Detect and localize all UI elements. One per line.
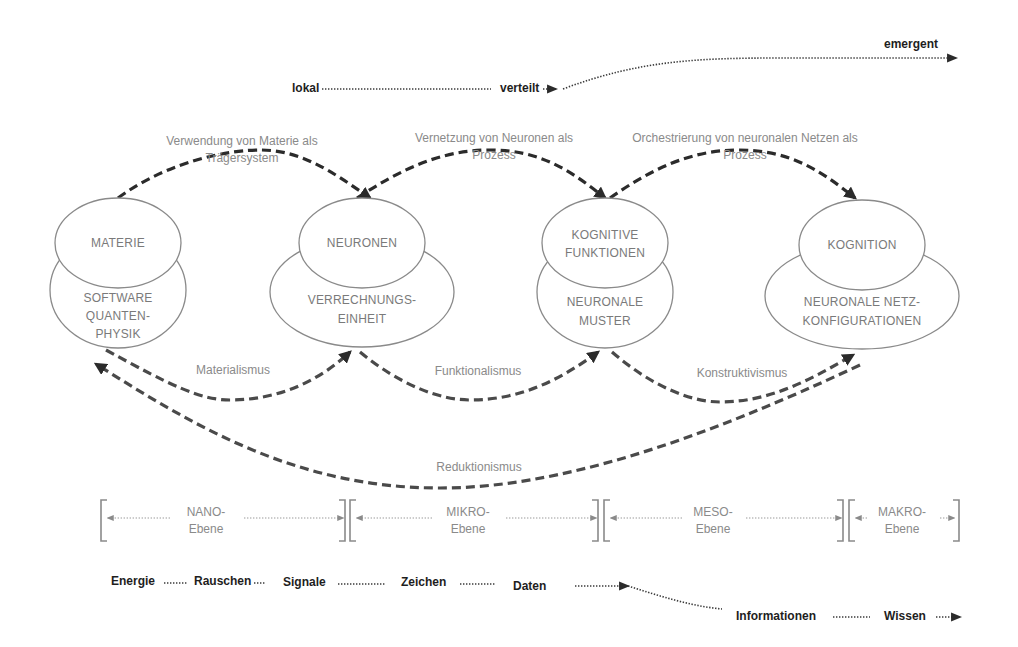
funktionalismus-label: Funktionalismus [435,364,522,378]
node-subtitle: QUANTEN- [86,309,150,323]
node-top-ellipse [542,198,668,288]
chain-energie: Energie [111,574,155,588]
bracket-left-icon [350,500,356,541]
node-subtitle: NEURONALE [567,295,643,309]
node-title: NEURONEN [327,236,397,250]
process-labels: Verwendung von Materie als Trägersystem … [166,131,857,165]
process-label: Prozess [472,148,515,162]
chain-rauschen: Rauschen [194,574,251,588]
level-label: MIKRO- [446,505,489,519]
node-subtitle: EINHEIT [338,312,387,326]
process-label: Vernetzung von Neuronen als [415,131,573,145]
level-label: MAKRO- [878,505,926,519]
levels-row: NANO- Ebene MIKRO- Ebene MESO- Ebene [101,500,959,541]
level-nano: NANO- Ebene [101,500,345,541]
node-title: KOGNITIVE [571,228,638,242]
node-title: FUNKTIONEN [565,246,645,260]
chain-daten: Daten [513,579,546,593]
data-chain: Energie Rauschen Signale Zeichen Daten I… [111,574,960,623]
bracket-right-icon [592,500,598,541]
scale-verteilt-label: verteilt [500,81,539,95]
konstruktivismus-label: Konstruktivismus [697,366,788,380]
node-subtitle: VERRECHNUNGS- [308,293,417,307]
chain-wissen: Wissen [884,609,926,623]
level-label: Ebene [885,522,920,536]
process-label: Trägersystem [206,151,279,165]
reduktionismus-label: Reduktionismus [436,460,521,474]
scale-emergent-label: emergent [884,37,938,51]
node-subtitle: KONFIGURATIONEN [803,314,922,328]
node-subtitle: SOFTWARE [83,291,152,305]
node-kognition: KOGNITION NEURONALE NETZ- KONFIGURATIONE… [765,200,959,349]
scale-emergent-arrow-icon [563,58,956,89]
materialismus-label: Materialismus [196,363,270,377]
level-meso: MESO- Ebene [604,500,843,541]
level-makro: MAKRO- Ebene [849,500,959,541]
bracket-left-icon [101,500,107,541]
chain-curve-line [628,586,722,609]
process-label: Prozess [723,148,766,162]
bracket-right-icon [339,500,345,541]
level-label: MESO- [693,505,732,519]
node-title: KOGNITION [827,238,896,252]
chain-signale: Signale [283,575,326,589]
locality-scale: lokal verteilt emergent [292,37,956,95]
level-mikro: MIKRO- Ebene [350,500,598,541]
node-neuronen: NEURONEN VERRECHNUNGS- EINHEIT [270,198,454,347]
process-label: Verwendung von Materie als [166,134,317,148]
bracket-left-icon [604,500,610,541]
level-label: NANO- [187,505,226,519]
scale-lokal-label: lokal [292,81,319,95]
bracket-left-icon [849,500,855,541]
node-kognitive-funktionen: KOGNITIVE FUNKTIONEN NEURONALE MUSTER [537,198,673,348]
philosophy-labels: Materialismus Funktionalismus Konstrukti… [196,363,787,474]
node-materie: MATERIE SOFTWARE QUANTEN- PHYSIK [50,198,186,348]
level-label: Ebene [189,522,224,536]
node-subtitle: NEURONALE NETZ- [804,295,920,309]
node-subtitle: PHYSIK [95,327,140,341]
level-label: Ebene [451,522,486,536]
chain-informationen: Informationen [736,609,816,623]
cognition-levels-diagram: lokal verteilt emergent Verwendung von M… [0,0,1018,647]
chain-zeichen: Zeichen [401,575,446,589]
bracket-right-icon [837,500,843,541]
node-subtitle: MUSTER [579,314,631,328]
bracket-right-icon [953,500,959,541]
level-label: Ebene [696,522,731,536]
node-title: MATERIE [91,236,145,250]
process-label: Orchestrierung von neuronalen Netzen als [632,131,857,145]
